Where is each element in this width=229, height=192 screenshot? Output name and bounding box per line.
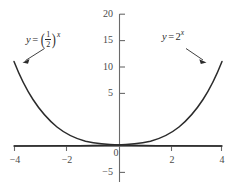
curve-label-half-power-x: y=(12)x xyxy=(26,31,60,49)
fraction-denominator: 2 xyxy=(45,41,51,49)
fraction-numerator: 1 xyxy=(45,31,51,39)
left-label-equals: = xyxy=(32,35,38,46)
x-tick-label-0: 0 xyxy=(106,148,126,158)
right-label-y: y xyxy=(162,31,167,42)
left-label-exponent: x xyxy=(57,31,60,39)
exponential-functions-graph: 20 15 10 5 −5 −4 −2 0 2 4 y=(12)x y=2x xyxy=(0,0,229,192)
fraction-one-half: 12 xyxy=(45,31,51,49)
y-tick-label-5: 5 xyxy=(89,88,113,98)
curve-label-two-power-x: y=2x xyxy=(162,32,184,43)
x-tick-label-4: 4 xyxy=(212,155,229,165)
curve-half-power-x xyxy=(14,62,222,147)
left-label-y: y xyxy=(26,34,31,45)
left-paren-close: ) xyxy=(52,35,56,45)
y-tick-label-10: 10 xyxy=(89,62,113,72)
y-tick-label-20: 20 xyxy=(89,9,113,19)
plot-area xyxy=(0,0,229,192)
x-tick-label-minus-4: −4 xyxy=(5,155,25,165)
right-label-arrow xyxy=(186,49,207,65)
left-paren-open: ( xyxy=(40,35,44,45)
y-tick-label-minus-5: −5 xyxy=(89,167,113,177)
x-tick-label-minus-2: −2 xyxy=(57,155,77,165)
curve-two-power-x xyxy=(14,62,222,147)
left-label-arrow xyxy=(23,49,45,64)
right-label-exponent: x xyxy=(181,29,184,37)
y-tick-label-15: 15 xyxy=(89,35,113,45)
right-label-equals: = xyxy=(168,32,174,43)
x-tick-label-2: 2 xyxy=(162,155,182,165)
